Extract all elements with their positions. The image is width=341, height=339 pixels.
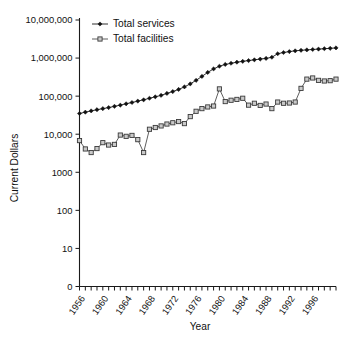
data-point-marker xyxy=(241,96,245,100)
data-point-marker xyxy=(293,100,297,104)
y-axis-tick-label: 1,000,000 xyxy=(31,52,73,63)
data-point-marker xyxy=(177,119,181,123)
y-axis-tick-label: 10,000,000 xyxy=(26,14,73,25)
data-point-marker xyxy=(142,150,146,154)
data-point-marker xyxy=(200,107,204,111)
data-point-marker xyxy=(136,138,140,142)
data-point-marker xyxy=(194,109,198,113)
y-axis-tick-label: 0 xyxy=(67,281,72,292)
x-axis-title: Year xyxy=(190,321,211,332)
data-point-marker xyxy=(98,37,102,41)
data-point-marker xyxy=(211,104,215,108)
y-axis-tick-label: 1000 xyxy=(52,167,73,178)
data-point-marker xyxy=(252,101,256,105)
data-point-marker xyxy=(270,107,274,111)
data-point-marker xyxy=(147,127,151,131)
data-point-marker xyxy=(322,79,326,83)
data-point-marker xyxy=(276,100,280,104)
data-point-marker xyxy=(311,76,315,80)
data-point-marker xyxy=(334,77,338,81)
data-point-marker xyxy=(299,86,303,90)
data-point-marker xyxy=(83,147,87,151)
data-point-marker xyxy=(124,134,128,138)
data-point-marker xyxy=(235,97,239,101)
data-point-marker xyxy=(217,87,221,91)
data-point-marker xyxy=(95,146,99,150)
data-point-marker xyxy=(77,138,81,142)
data-point-marker xyxy=(328,79,332,83)
chart-figure: 10,000,0001,000,000100,00010,00010001001… xyxy=(0,0,341,339)
data-point-marker xyxy=(246,103,250,107)
y-axis-title: Current Dollars xyxy=(9,134,20,203)
data-point-marker xyxy=(112,142,116,146)
y-axis-tick-label: 100 xyxy=(57,205,73,216)
y-axis-tick-label: 10 xyxy=(62,243,72,254)
data-point-marker xyxy=(188,115,192,119)
data-point-marker xyxy=(264,102,268,106)
data-point-marker xyxy=(182,122,186,126)
data-point-marker xyxy=(316,78,320,82)
data-point-marker xyxy=(281,101,285,105)
data-point-marker xyxy=(258,103,262,107)
data-point-marker xyxy=(107,143,111,147)
data-point-marker xyxy=(223,99,227,103)
data-point-marker xyxy=(159,124,163,128)
data-point-marker xyxy=(305,77,309,81)
line-chart: 10,000,0001,000,000100,00010,00010001001… xyxy=(0,0,341,339)
data-point-marker xyxy=(165,122,169,126)
data-point-marker xyxy=(89,150,93,154)
data-point-marker xyxy=(153,125,157,129)
y-axis-tick-label: 10,000 xyxy=(44,129,73,140)
data-point-marker xyxy=(229,98,233,102)
legend-label: Total facilities xyxy=(113,33,174,44)
data-point-marker xyxy=(118,133,122,137)
data-point-marker xyxy=(101,141,105,145)
data-point-marker xyxy=(171,121,175,125)
data-point-marker xyxy=(206,105,210,109)
y-axis-tick-label: 100,000 xyxy=(39,91,73,102)
data-point-marker xyxy=(287,101,291,105)
legend-label: Total services xyxy=(113,18,175,29)
data-point-marker xyxy=(130,133,134,137)
